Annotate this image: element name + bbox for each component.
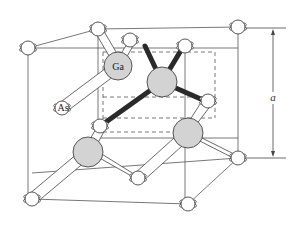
lattice-constant-label: a xyxy=(270,91,276,103)
ga-atoms xyxy=(73,52,203,167)
lattice-dimension xyxy=(246,28,286,158)
as-atom xyxy=(179,197,197,211)
as-atom xyxy=(229,20,247,34)
ga-atom-lower-left xyxy=(73,137,103,167)
ga-label: Ga xyxy=(112,61,124,72)
ga-atom-center xyxy=(147,67,177,97)
gaas-crystal-diagram: Ga As a xyxy=(0,0,300,229)
as-atom xyxy=(19,41,37,55)
as-atom xyxy=(121,33,139,47)
ga-atom-lower-right xyxy=(173,118,203,148)
as-label: As xyxy=(57,102,68,113)
